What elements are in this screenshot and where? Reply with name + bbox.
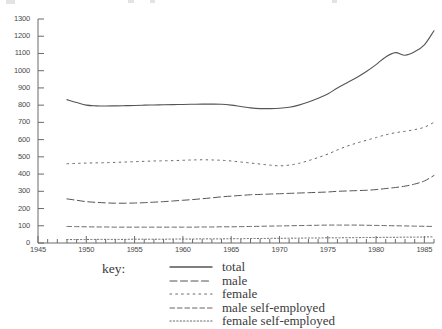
y-tick-label: 600	[4, 135, 30, 144]
x-tick-label: 1965	[216, 245, 246, 254]
legend-label: female self-employed	[222, 313, 335, 329]
series-line-male-self-employed	[67, 225, 434, 227]
y-tick-label: 1300	[4, 14, 30, 23]
x-tick-label: 1980	[361, 245, 391, 254]
plot-area	[0, 0, 442, 260]
legend-line-sample	[168, 287, 214, 300]
y-tick-label: 900	[4, 83, 30, 92]
x-tick-label: 1945	[23, 245, 53, 254]
y-tick-label: 1200	[4, 31, 30, 40]
y-tick-label: 1000	[4, 66, 30, 75]
series-line-female	[67, 122, 434, 165]
y-tick-label: 200	[4, 204, 30, 213]
series-line-male	[67, 175, 434, 203]
series-line-total	[67, 31, 434, 109]
legend-title: key:	[102, 261, 125, 277]
y-tick-label: 400	[4, 169, 30, 178]
x-tick-label: 1955	[120, 245, 150, 254]
legend-line-sample	[168, 274, 214, 287]
x-tick-label: 1960	[168, 245, 198, 254]
y-tick-label: 1100	[4, 48, 30, 57]
y-tick-label: 300	[4, 186, 30, 195]
y-tick-label: 700	[4, 117, 30, 126]
axis-lines	[38, 19, 434, 243]
legend-line-sample	[168, 314, 214, 327]
y-tick-label: 100	[4, 221, 30, 230]
legend-line-sample	[168, 301, 214, 314]
data-series-group	[67, 31, 434, 240]
y-tick-label: 800	[4, 100, 30, 109]
x-tick-label: 1950	[71, 245, 101, 254]
x-tick-label: 1970	[264, 245, 294, 254]
y-axis-ticks	[38, 19, 44, 243]
chart-legend: key: totalmalefemalemale self-employedfe…	[0, 258, 442, 327]
x-tick-label: 1985	[409, 245, 439, 254]
y-tick-label: 500	[4, 152, 30, 161]
legend-line-sample	[168, 260, 214, 273]
x-tick-label: 1975	[313, 245, 343, 254]
